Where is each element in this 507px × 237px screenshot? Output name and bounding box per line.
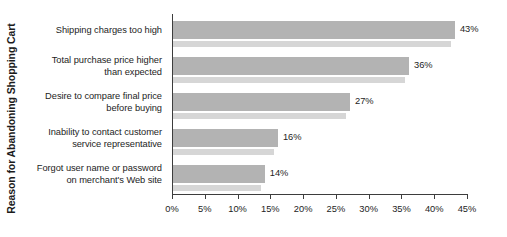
x-axis-tick-mark: [205, 195, 206, 199]
bar[interactable]: [173, 93, 350, 111]
category-axis-labels: Shipping charges too highTotal purchase …: [22, 14, 168, 194]
bar-value-label: 43%: [460, 24, 479, 34]
x-axis-tick-mark: [270, 195, 271, 199]
x-axis-line: [172, 194, 468, 195]
bar-value-label: 27%: [355, 96, 374, 106]
bar[interactable]: [173, 21, 455, 39]
x-axis-tick-mark: [401, 195, 402, 199]
x-axis-tick-mark: [434, 195, 435, 199]
bar[interactable]: [173, 165, 265, 183]
bar-value-label: 14%: [270, 168, 289, 178]
x-axis-tick-mark: [303, 195, 304, 199]
x-axis-tick-mark: [369, 195, 370, 199]
x-axis-tick-mark: [238, 195, 239, 199]
bar-shadow: [173, 185, 261, 191]
category-label: Desire to compare final pricebefore buyi…: [16, 91, 162, 114]
category-label: Shipping charges too high: [16, 25, 162, 37]
x-axis-tick-mark: [467, 195, 468, 199]
bar-chart: Reason for Abandoning Shopping Cart Ship…: [0, 0, 507, 237]
bar[interactable]: [173, 57, 409, 75]
bar-value-label: 36%: [414, 60, 433, 70]
x-axis-tick-mark: [172, 195, 173, 199]
bar[interactable]: [173, 129, 278, 147]
plot-area: 0%5%10%15%20%25%30%35%40%45%43%36%27%16%…: [172, 14, 468, 194]
bar-shadow: [173, 113, 346, 119]
bar-shadow: [173, 149, 274, 155]
category-label: Forgot user name or passwordon merchant'…: [16, 163, 162, 186]
bar-shadow: [173, 77, 405, 83]
x-axis-tick-mark: [336, 195, 337, 199]
bar-value-label: 16%: [283, 132, 302, 142]
x-axis-tick-label: 45%: [447, 204, 487, 214]
bar-shadow: [173, 41, 451, 47]
category-label: Inability to contact customerservice rep…: [16, 127, 162, 150]
category-label: Total purchase price higherthan expected: [16, 55, 162, 78]
